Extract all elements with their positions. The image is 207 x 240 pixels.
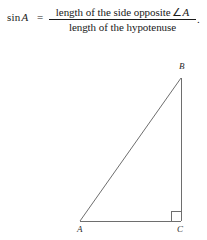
angle-variable: A: [20, 11, 28, 23]
angle-symbol-icon: ∠: [171, 6, 182, 18]
numerator-text: length of the side opposite: [56, 6, 171, 18]
trigonometric-identity-formula: sinA = length of the side opposite∠A len…: [0, 0, 207, 42]
sine-function-label: sinA: [7, 11, 28, 23]
ratio-fraction: length of the side opposite∠A length of …: [49, 5, 196, 34]
numerator-angle-variable: A: [182, 6, 190, 18]
right-angle-marker-icon: [171, 211, 181, 221]
vertex-label-a: A: [77, 224, 83, 234]
fraction-denominator: length of the hypotenuse: [49, 20, 196, 34]
terminal-period: .: [197, 13, 200, 25]
right-triangle-figure: B A C: [0, 42, 207, 240]
side-hypotenuse: [80, 78, 181, 221]
equals-sign: =: [37, 11, 43, 23]
fraction-numerator: length of the side opposite∠A: [49, 5, 196, 19]
triangle-drawing: [0, 42, 207, 240]
vertex-label-c: C: [177, 224, 183, 234]
function-name: sin: [7, 11, 20, 23]
vertex-label-b: B: [179, 61, 185, 71]
